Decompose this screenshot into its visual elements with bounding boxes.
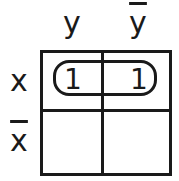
column-label-y-bar: y — [118, 8, 158, 38]
cell-x-ybar: 1 — [130, 66, 148, 94]
cell-x-y: 1 — [64, 66, 82, 94]
row-label-x-bar: x — [4, 126, 34, 156]
row-label-x: x — [4, 66, 34, 96]
grid-divider-horizontal — [40, 109, 172, 112]
column-label-y: y — [52, 8, 92, 38]
